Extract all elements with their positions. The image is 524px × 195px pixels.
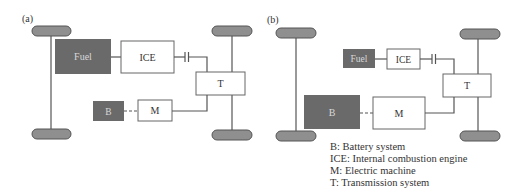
legend-item-transmission: T: Transmission system	[330, 177, 467, 189]
wheel-front-left	[32, 26, 71, 36]
transmission-label: T	[464, 80, 470, 91]
legend-item-motor: M: Electric machine	[330, 165, 467, 177]
battery-label: B	[105, 107, 111, 117]
legend-item-ice: ICE: Internal combustion engine	[330, 153, 467, 165]
wheel-rear-left	[276, 131, 316, 141]
battery-label: B	[329, 107, 336, 118]
panel-a-label: (a)	[22, 13, 33, 25]
panel-a: (a) Fuel ICE T B M	[22, 13, 252, 140]
wheel-rear-left	[32, 129, 71, 139]
panel-b: (b) Fuel ICE T B M	[267, 14, 500, 141]
motor-transmission-link	[425, 97, 454, 113]
wheel-rear-right	[460, 131, 500, 141]
legend: B: Battery system ICE: Internal combusti…	[330, 141, 467, 189]
transmission-label: T	[217, 78, 223, 89]
wheel-front-right	[460, 29, 500, 39]
wheel-front-right	[212, 26, 252, 36]
wheel-rear-right	[212, 130, 252, 140]
ice-label: ICE	[139, 52, 155, 63]
clutch-transmission-link	[189, 57, 208, 72]
panel-b-label: (b)	[267, 14, 279, 26]
motor-label: M	[395, 108, 404, 119]
ice-label: ICE	[396, 55, 412, 65]
motor-label: M	[151, 105, 160, 116]
fuel-label: Fuel	[74, 51, 92, 62]
motor-transmission-link	[172, 95, 207, 111]
clutch-transmission-link	[436, 59, 455, 74]
wheel-front-left	[276, 28, 316, 38]
legend-item-battery: B: Battery system	[330, 141, 467, 153]
fuel-label: Fuel	[351, 54, 368, 64]
